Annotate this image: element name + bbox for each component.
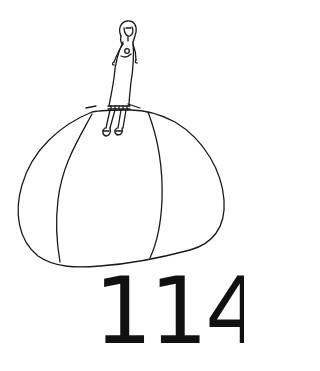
girl-figure-drawing bbox=[103, 21, 137, 136]
ground-line-drawing bbox=[86, 106, 96, 108]
page-number: 114 bbox=[94, 262, 240, 362]
